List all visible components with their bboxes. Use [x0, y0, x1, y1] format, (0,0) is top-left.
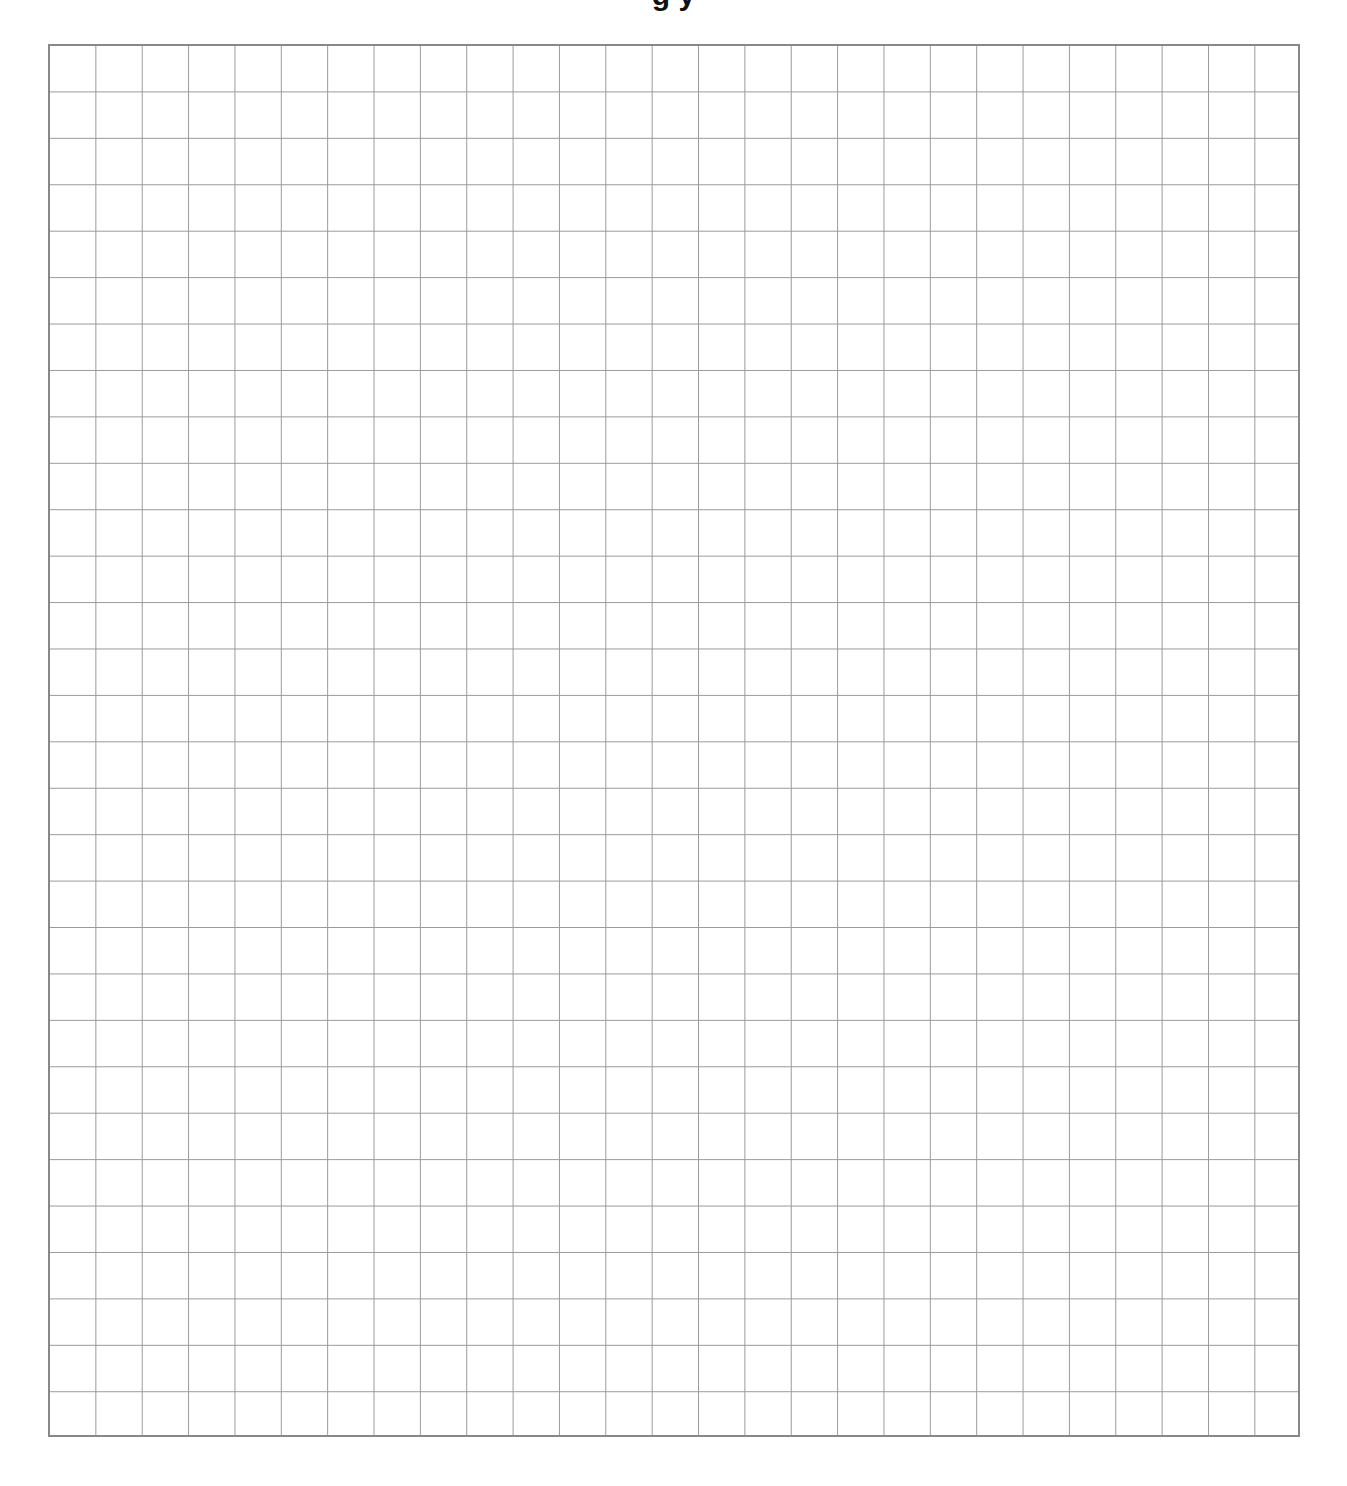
- page-title-cropped: g y: [0, 0, 1347, 12]
- graph-paper-grid: [48, 44, 1300, 1437]
